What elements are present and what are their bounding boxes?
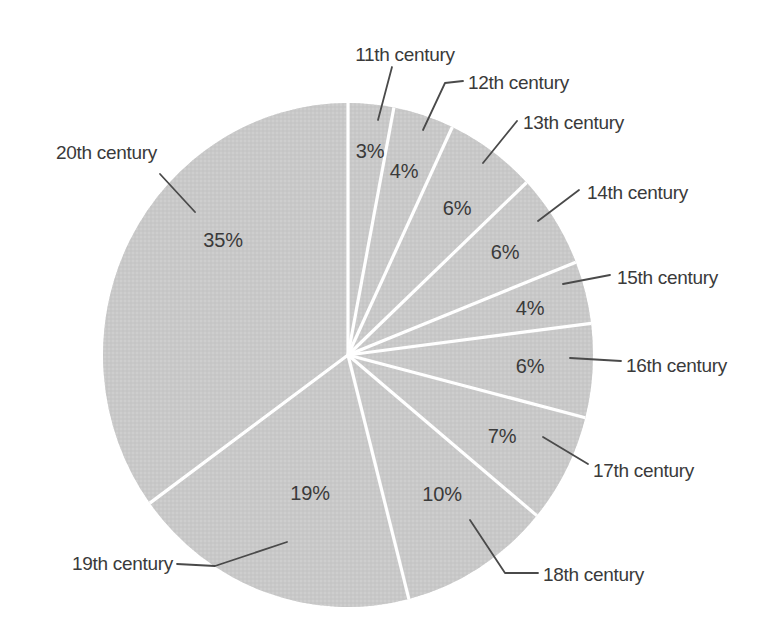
category-label-18th-century: 18th century bbox=[543, 564, 645, 585]
pct-label-16th-century: 6% bbox=[516, 355, 545, 377]
pct-label-19th-century: 19% bbox=[290, 482, 330, 504]
pct-label-14th-century: 6% bbox=[491, 241, 520, 263]
pct-label-15th-century: 4% bbox=[516, 297, 545, 319]
pct-label-17th-century: 7% bbox=[488, 425, 517, 447]
category-label-14th-century: 14th century bbox=[587, 182, 689, 203]
pct-label-12th-century: 4% bbox=[390, 160, 419, 182]
category-label-17th-century: 17th century bbox=[593, 460, 695, 481]
pct-label-20th-century: 35% bbox=[203, 229, 243, 251]
pie-chart: 3%11th century4%12th century6%13th centu… bbox=[0, 0, 772, 643]
category-label-12th-century: 12th century bbox=[468, 72, 570, 93]
pct-label-18th-century: 10% bbox=[422, 483, 462, 505]
category-label-19th-century: 19th century bbox=[72, 553, 174, 574]
category-label-15th-century: 15th century bbox=[617, 267, 719, 288]
pie-chart-figure: 3%11th century4%12th century6%13th centu… bbox=[0, 0, 772, 643]
category-label-16th-century: 16th century bbox=[626, 355, 728, 376]
pct-label-11th-century: 3% bbox=[356, 140, 385, 162]
leader-line-13th-century bbox=[483, 121, 517, 163]
category-label-11th-century: 11th century bbox=[355, 44, 455, 65]
category-label-13th-century: 13th century bbox=[523, 112, 625, 133]
pct-label-13th-century: 6% bbox=[443, 197, 472, 219]
category-label-20th-century: 20th century bbox=[56, 142, 158, 163]
